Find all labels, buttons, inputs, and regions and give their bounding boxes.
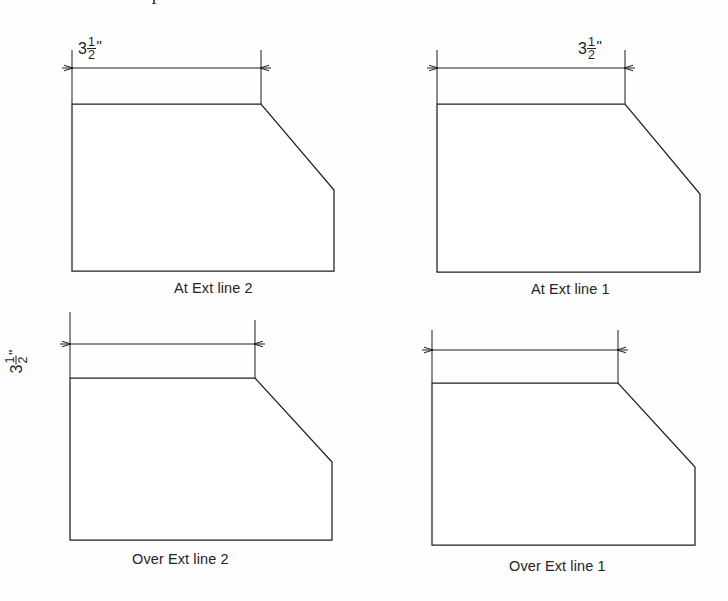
- fraction-one-half: 1 2: [3, 356, 30, 365]
- caption-over-ext-line-1: Over Ext line 1: [509, 558, 606, 574]
- figure-over-ext-line-2: [70, 312, 332, 540]
- dimension-text-fig3: 3 1 2 ": [4, 350, 31, 374]
- caption-at-ext-line-1: At Ext line 1: [531, 281, 610, 297]
- fraction-one-half: 1 2: [587, 36, 596, 63]
- scanned-page: a point is included in our choices.: [0, 0, 728, 601]
- dimension-text-fig2: 3 1 2 ": [578, 36, 602, 63]
- fraction-one-half: 1 2: [87, 36, 96, 63]
- chamfered-rectangle-shape-1: [72, 104, 334, 271]
- chamfered-rectangle-shape-2: [437, 104, 700, 272]
- caption-at-ext-line-2: At Ext line 2: [174, 280, 253, 296]
- figure-over-ext-line-1: [432, 330, 695, 545]
- figure-at-ext-line-2: [72, 50, 334, 271]
- caption-over-ext-line-2: Over Ext line 2: [132, 551, 229, 567]
- chamfered-rectangle-shape-4: [432, 383, 695, 545]
- figure-at-ext-line-1: [437, 50, 700, 272]
- chamfered-rectangle-shape-3: [70, 378, 332, 540]
- figure-line-art: [0, 0, 728, 601]
- dimension-text-fig1: 3 1 2 ": [78, 36, 102, 63]
